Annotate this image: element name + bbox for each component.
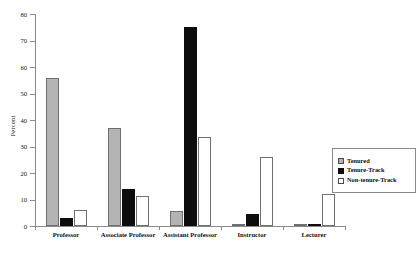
bar bbox=[108, 128, 121, 226]
bar bbox=[122, 189, 135, 226]
legend-item[interactable]: Tenure-Track bbox=[338, 167, 411, 173]
bar bbox=[260, 157, 273, 226]
y-axis-title: Percent bbox=[9, 116, 16, 137]
y-axis-tick-label: 10 bbox=[21, 197, 28, 204]
x-axis-tick bbox=[345, 226, 346, 230]
bar bbox=[74, 210, 87, 226]
y-axis-tick-label: 60 bbox=[21, 64, 28, 71]
legend-item[interactable]: Tenured bbox=[338, 158, 411, 164]
legend-swatch-icon bbox=[338, 158, 344, 164]
bar bbox=[198, 137, 211, 226]
x-axis-category-label: Instructor bbox=[238, 232, 267, 239]
x-axis-category-label: Professor bbox=[53, 232, 80, 239]
legend-swatch-icon bbox=[338, 168, 344, 174]
bar-group bbox=[294, 14, 335, 226]
bar bbox=[136, 196, 149, 226]
bar bbox=[246, 214, 259, 226]
bar bbox=[60, 218, 73, 226]
plot-area bbox=[35, 14, 345, 226]
y-axis-tick-label: 80 bbox=[21, 11, 28, 18]
x-axis-line bbox=[35, 226, 345, 227]
y-axis-tick-label: 50 bbox=[21, 91, 28, 98]
legend-item-label: Tenured bbox=[347, 158, 370, 164]
bar bbox=[170, 211, 183, 226]
legend-item-label: Non-tenure-Track bbox=[347, 177, 396, 183]
legend-item-label: Tenure-Track bbox=[347, 167, 385, 173]
x-axis-category-label: Assistant Professor bbox=[163, 232, 217, 239]
y-axis-tick-label: 0 bbox=[24, 223, 27, 230]
bar-chart: Percent 01020304050607080 ProfessorAssoc… bbox=[0, 0, 419, 257]
bar bbox=[322, 194, 335, 226]
legend-swatch-icon bbox=[338, 178, 344, 184]
bar-group bbox=[170, 14, 211, 226]
y-axis-tick-label: 40 bbox=[21, 117, 28, 124]
bar bbox=[46, 78, 59, 226]
y-axis-tick-label: 30 bbox=[21, 144, 28, 151]
x-axis-category-label: Lecturer bbox=[302, 232, 327, 239]
legend-item[interactable]: Non-tenure-Track bbox=[338, 177, 411, 183]
y-axis-tick-label: 70 bbox=[21, 38, 28, 45]
bar-group bbox=[232, 14, 273, 226]
bar-group bbox=[108, 14, 149, 226]
bar-group bbox=[46, 14, 87, 226]
y-axis-tick-label: 20 bbox=[21, 170, 28, 177]
legend: TenuredTenure-TrackNon-tenure-Track bbox=[332, 148, 416, 193]
bar bbox=[184, 27, 197, 226]
x-axis-category-label: Associate Professor bbox=[101, 232, 156, 239]
